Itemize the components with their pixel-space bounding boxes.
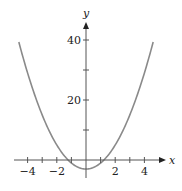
y-tick-label: 40 (67, 34, 81, 47)
x-axis-label: x (169, 154, 176, 167)
parabola-chart: −4−2242040 x y (0, 0, 182, 191)
x-tick-label: 4 (141, 165, 148, 178)
x-tick-label: −4 (19, 165, 35, 178)
y-tick-label: 20 (67, 94, 81, 107)
x-tick-label: 2 (112, 165, 119, 178)
y-axis-label: y (82, 7, 90, 20)
x-axis-arrow-icon (159, 157, 166, 163)
x-tick-label: −2 (49, 165, 65, 178)
y-axis-arrow-icon (83, 22, 89, 29)
